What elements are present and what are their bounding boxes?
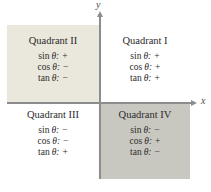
sign-line-cos: cosθ:− <box>38 62 69 73</box>
theta-symbol: θ: <box>51 125 59 135</box>
sign-line-tan: tanθ:− <box>130 147 161 158</box>
y-axis-arrowhead-icon <box>97 11 103 17</box>
theta-symbol: θ: <box>144 147 152 157</box>
sign-value: − <box>63 62 68 72</box>
sign-value: + <box>155 136 160 146</box>
sign-value: + <box>155 73 160 83</box>
sign-value: + <box>62 51 67 61</box>
theta-symbol: θ: <box>144 136 152 146</box>
quadrant-iv-sign-list: sinθ:− cosθ:+ tanθ:− <box>130 125 161 158</box>
function-name: sin <box>38 51 49 61</box>
quadrant-ii-title: Quadrant II <box>29 35 78 47</box>
quadrant-iii-region: Quadrant III sinθ:− cosθ:− tanθ:+ <box>7 104 99 179</box>
quadrant-iv-region: Quadrant IV sinθ:− cosθ:+ tanθ:− <box>100 104 190 179</box>
x-axis-label: x <box>201 96 205 106</box>
quadrant-iv-title: Quadrant IV <box>119 109 172 121</box>
function-name: cos <box>130 136 143 146</box>
theta-symbol: θ: <box>144 73 152 83</box>
sign-value: + <box>63 147 68 157</box>
sign-line-sin: sinθ:+ <box>38 51 69 62</box>
theta-symbol: θ: <box>52 136 60 146</box>
quadrant-i-sign-list: sinθ:+ cosθ:+ tanθ:+ <box>130 51 161 84</box>
function-name: sin <box>38 125 49 135</box>
theta-symbol: θ: <box>144 62 152 72</box>
quadrant-iii-title: Quadrant III <box>27 109 79 121</box>
x-axis-arrowhead-icon <box>191 100 197 106</box>
function-name: tan <box>38 73 50 83</box>
function-name: tan <box>130 73 142 83</box>
sign-line-tan: tanθ:+ <box>130 73 161 84</box>
y-axis-line <box>99 17 101 179</box>
sign-value: + <box>154 51 159 61</box>
sign-value: + <box>155 62 160 72</box>
sign-value: − <box>62 125 67 135</box>
sign-line-cos: cosθ:− <box>38 136 69 147</box>
function-name: tan <box>130 147 142 157</box>
quadrant-sign-diagram: Quadrant II sinθ:+ cosθ:− tanθ:− Quadran… <box>0 0 211 192</box>
function-name: cos <box>130 62 143 72</box>
theta-symbol: θ: <box>52 62 60 72</box>
function-name: cos <box>38 136 51 146</box>
sign-line-sin: sinθ:− <box>38 125 69 136</box>
quadrant-iii-sign-list: sinθ:− cosθ:− tanθ:+ <box>38 125 69 158</box>
sign-line-sin: sinθ:+ <box>130 51 161 62</box>
sign-line-cos: cosθ:+ <box>130 62 161 73</box>
theta-symbol: θ: <box>52 147 60 157</box>
quadrant-ii-region: Quadrant II sinθ:+ cosθ:− tanθ:− <box>7 25 99 103</box>
sign-line-tan: tanθ:+ <box>38 147 69 158</box>
sign-value: − <box>63 136 68 146</box>
function-name: tan <box>38 147 50 157</box>
theta-symbol: θ: <box>143 125 151 135</box>
y-axis-label: y <box>96 0 100 10</box>
quadrant-i-region: Quadrant I sinθ:+ cosθ:+ tanθ:+ <box>100 25 190 103</box>
sign-value: − <box>155 147 160 157</box>
theta-symbol: θ: <box>143 51 151 61</box>
quadrant-i-title: Quadrant I <box>122 35 167 47</box>
quadrant-ii-sign-list: sinθ:+ cosθ:− tanθ:− <box>38 51 69 84</box>
theta-symbol: θ: <box>52 73 60 83</box>
function-name: sin <box>130 125 141 135</box>
function-name: sin <box>130 51 141 61</box>
sign-line-tan: tanθ:− <box>38 73 69 84</box>
sign-value: − <box>154 125 159 135</box>
theta-symbol: θ: <box>51 51 59 61</box>
sign-value: − <box>63 73 68 83</box>
sign-line-sin: sinθ:− <box>130 125 161 136</box>
function-name: cos <box>38 62 51 72</box>
sign-line-cos: cosθ:+ <box>130 136 161 147</box>
